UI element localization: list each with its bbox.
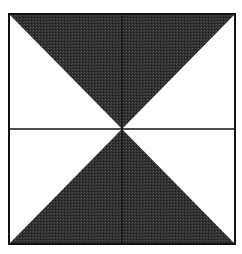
hourglass-square-diagram [0,0,242,254]
